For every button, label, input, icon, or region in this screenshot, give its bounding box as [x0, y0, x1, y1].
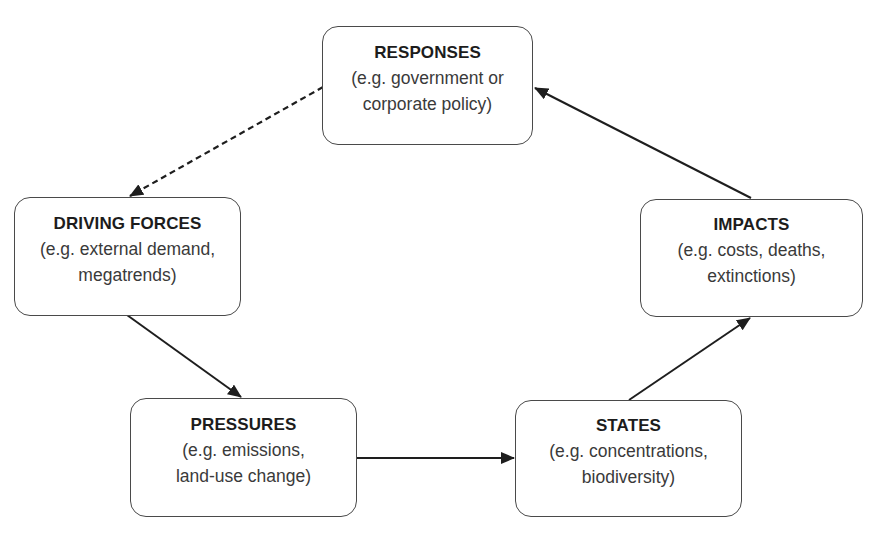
node-pressures-description: (e.g. emissions, land-use change) [176, 437, 311, 489]
node-states-title: STATES [596, 414, 661, 438]
node-impacts: IMPACTS (e.g. costs, deaths, extinctions… [640, 199, 863, 317]
edge-responses-to-driving-forces [130, 87, 323, 196]
node-impacts-description: (e.g. costs, deaths, extinctions) [678, 237, 826, 289]
node-states-description: (e.g. concentrations, biodiversity) [549, 438, 708, 490]
edge-states-to-impacts [629, 318, 750, 400]
dpsir-diagram: RESPONSES (e.g. government or corporate … [0, 0, 879, 534]
node-states: STATES (e.g. concentrations, biodiversit… [515, 400, 742, 517]
node-pressures-title: PRESSURES [191, 413, 297, 437]
node-driving-forces: DRIVING FORCES (e.g. external demand, me… [14, 197, 241, 316]
node-responses: RESPONSES (e.g. government or corporate … [322, 26, 533, 145]
node-pressures: PRESSURES (e.g. emissions, land-use chan… [130, 398, 357, 517]
node-driving-forces-title: DRIVING FORCES [54, 212, 202, 236]
node-driving-forces-description: (e.g. external demand, megatrends) [40, 236, 215, 288]
node-responses-title: RESPONSES [374, 41, 481, 65]
edge-driving-forces-to-pressures [127, 315, 241, 397]
node-impacts-title: IMPACTS [714, 213, 790, 237]
edge-impacts-to-responses [535, 88, 751, 198]
node-responses-description: (e.g. government or corporate policy) [351, 65, 504, 117]
